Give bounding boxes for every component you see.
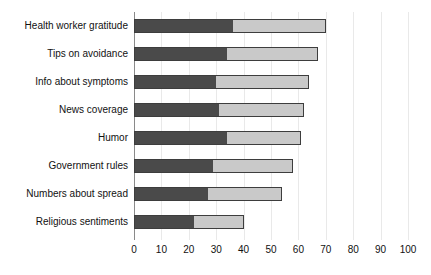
plot-area [134, 12, 408, 240]
bar-segment-2 [216, 75, 309, 89]
bar-segment-2 [233, 19, 326, 33]
bar-row [134, 103, 408, 117]
bar-row [134, 19, 408, 33]
category-label: Humor [0, 131, 128, 145]
category-label: Tips on avoidance [0, 47, 128, 61]
bar-series-group [134, 12, 408, 240]
bar-stack [134, 103, 408, 117]
bar-segment-1 [134, 187, 208, 201]
x-tick-label-70: 70 [320, 244, 331, 256]
x-tick-label-90: 90 [375, 244, 386, 256]
x-tick-label-20: 20 [183, 244, 194, 256]
bar-stack [134, 159, 408, 173]
x-tick-label-30: 30 [211, 244, 222, 256]
x-tick-label-40: 40 [238, 244, 249, 256]
category-label: Government rules [0, 159, 128, 173]
bar-row [134, 47, 408, 61]
bar-stack [134, 187, 408, 201]
bar-row [134, 75, 408, 89]
category-label: Info about symptoms [0, 75, 128, 89]
x-tick-label-100: 100 [400, 244, 417, 256]
bar-segment-1 [134, 47, 227, 61]
bar-row [134, 159, 408, 173]
bar-segment-2 [194, 215, 243, 229]
x-tick-label-60: 60 [293, 244, 304, 256]
bar-segment-1 [134, 75, 216, 89]
bar-segment-1 [134, 215, 194, 229]
category-label: News coverage [0, 103, 128, 117]
bar-segment-2 [219, 103, 304, 117]
x-tick-label-0: 0 [131, 244, 137, 256]
bar-stack [134, 131, 408, 145]
bar-stack [134, 19, 408, 33]
x-axis-tick-labels: 0102030405060708090100 [134, 240, 408, 262]
horizontal-stacked-bar-chart: Health worker gratitudeTips on avoidance… [0, 0, 431, 275]
x-tick-label-10: 10 [156, 244, 167, 256]
bar-stack [134, 75, 408, 89]
bar-segment-1 [134, 103, 219, 117]
category-label: Health worker gratitude [0, 19, 128, 33]
bar-row [134, 131, 408, 145]
bar-segment-2 [213, 159, 292, 173]
category-label: Religious sentiments [0, 215, 128, 229]
bar-row [134, 187, 408, 201]
bar-segment-2 [227, 131, 301, 145]
bar-segment-1 [134, 19, 233, 33]
category-axis-labels: Health worker gratitudeTips on avoidance… [0, 12, 128, 240]
bar-stack [134, 47, 408, 61]
category-label: Numbers about spread [0, 187, 128, 201]
bar-segment-2 [208, 187, 282, 201]
bar-row [134, 215, 408, 229]
bar-segment-1 [134, 159, 213, 173]
bar-segment-2 [227, 47, 317, 61]
x-tick-label-80: 80 [348, 244, 359, 256]
x-tick-label-50: 50 [265, 244, 276, 256]
bar-stack [134, 215, 408, 229]
bar-segment-1 [134, 131, 227, 145]
gridline-100 [408, 12, 409, 240]
